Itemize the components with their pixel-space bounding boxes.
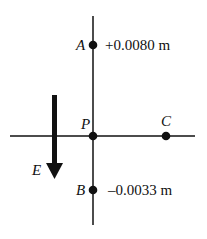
point-b-value: –0.0033 m [107,182,173,198]
point-a-value: +0.0080 m [105,37,170,53]
point-a-label: A [75,37,86,53]
point-c-dot [162,132,171,141]
field-arrow-icon [46,95,63,179]
point-a-dot [89,41,98,50]
point-p-label: P [80,116,90,132]
field-label: E [31,162,41,178]
point-b-dot [89,186,98,195]
point-p-dot [89,132,98,141]
point-b-label: B [76,182,85,198]
point-c-label: C [161,113,172,129]
field-diagram: E A +0.0080 m P C B –0.0033 m [0,0,207,239]
